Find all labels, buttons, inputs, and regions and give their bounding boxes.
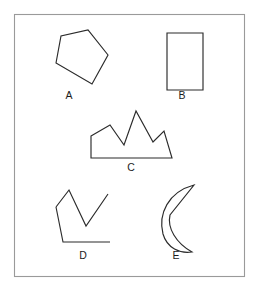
shape-label-b: B: [178, 89, 185, 101]
shape-label-a: A: [65, 89, 72, 101]
figure-root: A B C D E: [0, 0, 259, 291]
shape-label-d: D: [79, 249, 87, 261]
shapes-figure: A B C D E: [0, 0, 259, 291]
outer-border: [15, 15, 245, 277]
shape-label-e: E: [172, 249, 179, 261]
shape-label-c: C: [127, 161, 135, 173]
